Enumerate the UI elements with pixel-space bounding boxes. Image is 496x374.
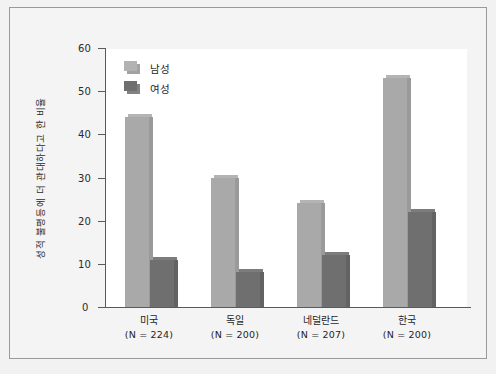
bar-male-1 — [211, 178, 235, 308]
y-tick-label-40: 40 — [78, 129, 95, 140]
y-axis-line — [105, 48, 106, 308]
legend-swatch-female-icon — [122, 81, 144, 95]
x-category-3: 한국(N = 200) — [383, 314, 431, 342]
legend-label-male: 남성 — [150, 61, 171, 76]
bar-female-1 — [236, 272, 260, 307]
x-category-n-3: (N = 200) — [383, 328, 431, 342]
bar-female-0 — [150, 260, 174, 307]
y-axis-title: 성적 불평등에 더 관대하다고 한 비율 — [33, 97, 47, 259]
x-category-n-2: (N = 207) — [297, 328, 345, 342]
x-category-name-0: 미국 — [125, 314, 173, 328]
x-category-n-0: (N = 224) — [125, 328, 173, 342]
y-tick-label-0: 0 — [82, 302, 95, 313]
figure-frame: 0102030405060 성적 불평등에 더 관대하다고 한 비율 남성 여성… — [9, 7, 487, 359]
legend-swatch-male-icon — [122, 61, 144, 75]
x-category-2: 네덜란드(N = 207) — [297, 314, 345, 342]
legend-item-male: 남성 — [122, 58, 171, 78]
y-tick-50 — [98, 91, 105, 92]
y-tick-label-30: 30 — [78, 172, 95, 183]
legend: 남성 여성 — [122, 58, 171, 98]
y-tick-label-60: 60 — [78, 43, 95, 54]
x-category-n-1: (N = 200) — [211, 328, 259, 342]
y-tick-0 — [98, 307, 105, 308]
x-category-name-3: 한국 — [383, 314, 431, 328]
x-category-name-1: 독일 — [211, 314, 259, 328]
legend-item-female: 여성 — [122, 78, 171, 98]
y-tick-20 — [98, 221, 105, 222]
legend-label-female: 여성 — [150, 81, 171, 96]
y-tick-30 — [98, 178, 105, 179]
y-tick-60 — [98, 48, 105, 49]
bar-male-3 — [383, 78, 407, 307]
y-tick-label-10: 10 — [78, 258, 95, 269]
x-category-0: 미국(N = 224) — [125, 314, 173, 342]
y-tick-label-20: 20 — [78, 215, 95, 226]
bar-female-2 — [322, 255, 346, 307]
y-tick-label-50: 50 — [78, 86, 95, 97]
x-category-name-2: 네덜란드 — [297, 314, 345, 328]
y-tick-40 — [98, 134, 105, 135]
y-tick-10 — [98, 264, 105, 265]
bar-female-3 — [408, 212, 432, 307]
figure-page: 0102030405060 성적 불평등에 더 관대하다고 한 비율 남성 여성… — [0, 0, 496, 374]
x-category-1: 독일(N = 200) — [211, 314, 259, 342]
x-axis-line — [105, 307, 471, 308]
bar-male-2 — [297, 203, 321, 307]
bar-male-0 — [125, 117, 149, 307]
